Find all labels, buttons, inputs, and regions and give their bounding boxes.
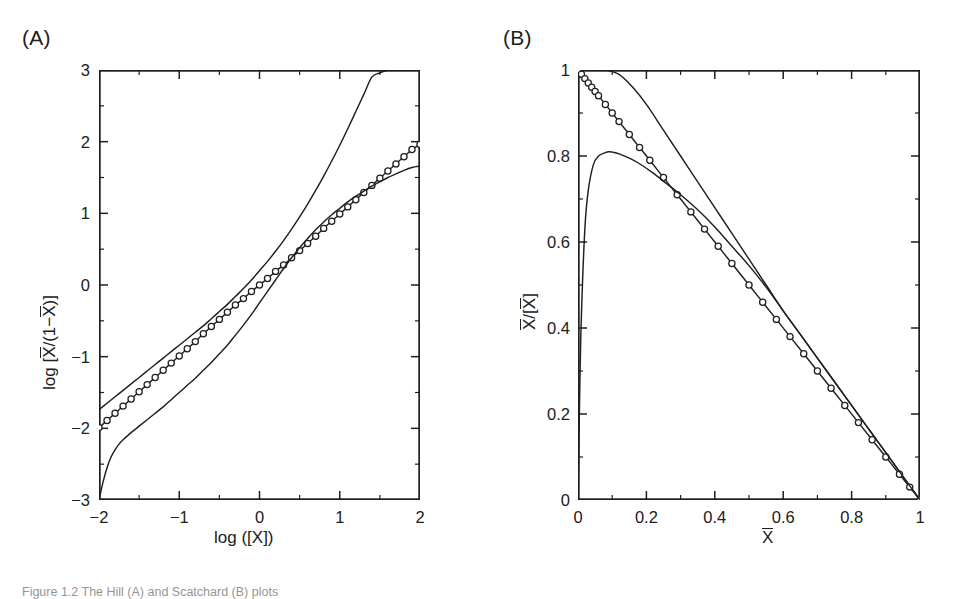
panel-a-plot-area xyxy=(99,70,420,500)
data-marker xyxy=(104,417,110,423)
data-marker xyxy=(787,334,793,340)
panel-a-xtick-neg1: −1 xyxy=(170,508,189,527)
panel-a-label: (A) xyxy=(22,26,51,50)
panel-b-label: (B) xyxy=(503,26,532,50)
series-group xyxy=(578,70,920,500)
data-marker xyxy=(701,226,707,232)
data-marker xyxy=(321,225,327,231)
panel-b-xtick-02: 0.2 xyxy=(635,508,658,527)
data-marker xyxy=(168,360,174,366)
data-marker xyxy=(248,288,254,294)
panel-a-xtick-2: 2 xyxy=(415,508,424,527)
data-marker xyxy=(729,260,735,266)
data-marker xyxy=(176,353,182,359)
panel-a-xtick-0: 0 xyxy=(255,508,264,527)
panel-a-x-axis-title: log ([X]) xyxy=(214,528,274,548)
panel-a-y-title-mid: /(1− xyxy=(40,317,59,347)
data-marker xyxy=(345,204,351,210)
panel-a-y-title-den: X xyxy=(41,305,58,316)
data-marker xyxy=(224,309,230,315)
data-marker xyxy=(160,367,166,373)
data-marker xyxy=(208,323,214,329)
figure-caption: Figure 1.2 The Hill (A) and Scatchard (B… xyxy=(22,585,278,599)
data-marker xyxy=(828,385,834,391)
data-marker xyxy=(152,374,158,380)
data-marker xyxy=(264,275,270,281)
series-group xyxy=(99,70,420,500)
data-marker xyxy=(144,382,150,388)
data-marker xyxy=(715,243,721,249)
data-marker xyxy=(184,346,190,352)
data-marker xyxy=(801,351,807,357)
panel-a-ytick-neg2: −2 xyxy=(54,419,90,438)
data-marker xyxy=(636,144,642,150)
data-marker xyxy=(688,209,694,215)
panel-b-y-title-mid: /[ xyxy=(520,309,539,318)
data-marker xyxy=(773,316,779,322)
panel-b-ytick-02: 0.2 xyxy=(520,405,570,424)
data-marker xyxy=(337,211,343,217)
data-marker xyxy=(855,420,861,426)
panel-b-ytick-1: 1 xyxy=(528,61,570,80)
panel-a-ytick-3: 3 xyxy=(60,61,90,80)
data-marker xyxy=(128,396,134,402)
data-marker xyxy=(814,368,820,374)
panel-a-ytick-0: 0 xyxy=(60,276,90,295)
curve-non-cooperative-peaked-curve xyxy=(578,152,920,500)
data-marker xyxy=(746,282,752,288)
data-marker xyxy=(417,141,420,147)
data-marker xyxy=(256,282,262,288)
panel-b-y-title-den: X xyxy=(521,298,538,309)
data-marker xyxy=(136,389,142,395)
data-marker xyxy=(409,146,415,152)
data-marker xyxy=(313,233,319,239)
panel-b-x-axis-title: X xyxy=(762,528,773,548)
panel-a-ytick-2: 2 xyxy=(60,132,90,151)
panel-b-xtick-0: 0 xyxy=(573,508,582,527)
data-marker xyxy=(385,168,391,174)
panel-b-xtick-06: 0.6 xyxy=(772,508,795,527)
panel-a-xtick-1: 1 xyxy=(335,508,344,527)
data-marker xyxy=(595,93,601,99)
data-marker xyxy=(272,268,278,274)
panel-b-xtick-1: 1 xyxy=(915,508,924,527)
panel-a-y-axis-title: log [X/(1−X)] xyxy=(40,295,60,390)
panel-b-xtick-08: 0.8 xyxy=(840,508,863,527)
data-marker xyxy=(401,154,407,160)
panel-a-xtick-neg2: −2 xyxy=(90,508,109,527)
data-marker xyxy=(112,410,118,416)
panel-a-ytick-1: 1 xyxy=(60,204,90,223)
data-marker xyxy=(200,331,206,337)
panel-b-ytick-0: 0 xyxy=(528,491,570,510)
curve-cooperative-upper-limit xyxy=(99,70,420,410)
panel-a-ytick-neg1: −1 xyxy=(54,347,90,366)
data-marker xyxy=(192,339,198,345)
data-marker xyxy=(602,101,608,107)
data-marker xyxy=(99,425,102,431)
data-marker xyxy=(329,218,335,224)
data-marker xyxy=(760,299,766,305)
data-marker xyxy=(240,296,246,302)
data-marker xyxy=(626,131,632,137)
data-marker xyxy=(232,302,238,308)
data-marker xyxy=(216,316,222,322)
data-marker xyxy=(120,403,126,409)
panel-a-y-title-suffix: )] xyxy=(40,295,59,305)
panel-b-ytick-08: 0.8 xyxy=(520,147,570,166)
panel-b-plot-area xyxy=(578,70,920,500)
panel-b-ytick-04: 0.4 xyxy=(520,319,570,338)
panel-b-xtick-04: 0.4 xyxy=(703,508,726,527)
curve-non-cooperative-lower-limit xyxy=(99,166,420,500)
panel-b-x-title-text: X xyxy=(762,529,773,546)
panel-b-ytick-06: 0.6 xyxy=(520,233,570,252)
data-marker xyxy=(616,119,622,125)
panel-a-ytick-neg3: −3 xyxy=(54,491,90,510)
data-marker xyxy=(842,402,848,408)
data-marker xyxy=(609,110,615,116)
data-marker xyxy=(393,161,399,167)
data-marker xyxy=(647,157,653,163)
